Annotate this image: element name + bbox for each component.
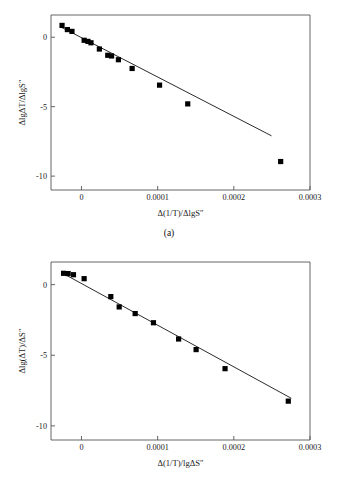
y-tick-label: -10: [36, 422, 47, 431]
data-point-marker: [130, 66, 135, 71]
data-point-marker: [71, 272, 76, 277]
data-point-marker: [69, 29, 74, 34]
x-tick-label: 0.0003: [299, 443, 322, 452]
data-point-marker: [61, 271, 66, 276]
data-point-marker: [117, 304, 122, 309]
trend-line: [63, 273, 292, 398]
data-point-marker: [157, 83, 162, 88]
x-axis-title: Δ(1/T)/lgΔS″: [157, 458, 204, 468]
data-point-marker: [151, 320, 156, 325]
scatter-plot-b: 00.00010.00020.00030-5-10Δ(1/T)/lgΔS″Δlg…: [0, 250, 338, 475]
data-point-marker: [278, 159, 283, 164]
data-point-marker: [194, 347, 199, 352]
y-tick-label: 0: [43, 33, 47, 42]
chart-panel-b: 00.00010.00020.00030-5-10Δ(1/T)/lgΔS″Δlg…: [0, 250, 338, 503]
data-point-marker: [176, 336, 181, 341]
x-tick-label: 0.0001: [146, 193, 169, 202]
data-point-marker: [116, 57, 121, 62]
scatter-plot-a: 00.00010.00020.00030-5-10Δ(1/T)/ΔlgS″Δlg…: [0, 0, 338, 228]
x-tick-label: 0: [79, 193, 83, 202]
data-point-marker: [108, 294, 113, 299]
y-tick-label: -10: [36, 172, 47, 181]
data-point-marker: [59, 23, 64, 28]
data-point-marker: [133, 311, 138, 316]
data-point-marker: [82, 276, 87, 281]
data-point-marker: [66, 271, 71, 276]
x-tick-label: 0.0001: [146, 443, 169, 452]
y-axis-title: ΔlgΔT/ΔlgS″: [17, 79, 27, 125]
plot-frame: [51, 262, 310, 440]
data-point-marker: [88, 40, 93, 45]
y-tick-label: -5: [40, 351, 47, 360]
panel-a-caption: (a): [0, 228, 338, 238]
x-tick-label: 0.0002: [223, 193, 246, 202]
y-tick-label: -5: [40, 103, 47, 112]
y-tick-label: 0: [43, 281, 47, 290]
x-tick-label: 0.0003: [299, 193, 322, 202]
data-point-marker: [65, 27, 70, 32]
x-tick-label: 0.0002: [223, 443, 246, 452]
chart-panel-a: 00.00010.00020.00030-5-10Δ(1/T)/ΔlgS″Δlg…: [0, 0, 338, 250]
x-axis-title: Δ(1/T)/ΔlgS″: [157, 208, 204, 218]
data-point-marker: [185, 101, 190, 106]
data-point-marker: [222, 366, 227, 371]
data-point-marker: [97, 46, 102, 51]
data-point-marker: [286, 399, 291, 404]
data-point-marker: [109, 53, 114, 58]
y-axis-title: Δlg(ΔT)/ΔS″: [17, 328, 27, 373]
x-tick-label: 0: [79, 443, 83, 452]
